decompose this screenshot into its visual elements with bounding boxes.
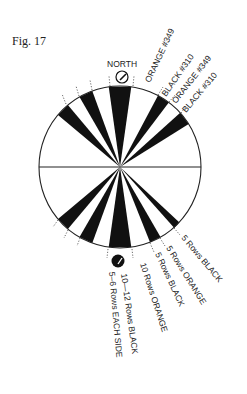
wheel xyxy=(39,86,201,248)
north-label: NORTH xyxy=(107,59,137,69)
north-marker: NORTH xyxy=(107,59,137,83)
sector-wheel-diagram: NORTH ORANGE #349 BLACK #310 ORANGE #349… xyxy=(0,0,247,394)
south-marker xyxy=(112,255,125,268)
bottom-labels: 5 Rows BLACK 5 Rows ORANGE 5 Rows BLACK … xyxy=(107,233,225,358)
south-dot-icon xyxy=(112,255,125,268)
top-labels: ORANGE #349 BLACK #310 ORANGE #349 BLACK… xyxy=(143,27,220,115)
